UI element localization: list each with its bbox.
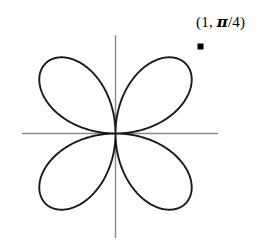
pi-symbol: π	[217, 13, 228, 31]
annotation-prefix: (1,	[196, 14, 217, 30]
point-annotation-label: (1, π/4)	[196, 15, 245, 30]
polar-rose-figure: (1, π/4)	[0, 0, 272, 247]
point-marker	[198, 44, 204, 50]
rose-curve-plot	[0, 0, 272, 247]
annotation-suffix: /4)	[228, 14, 245, 30]
